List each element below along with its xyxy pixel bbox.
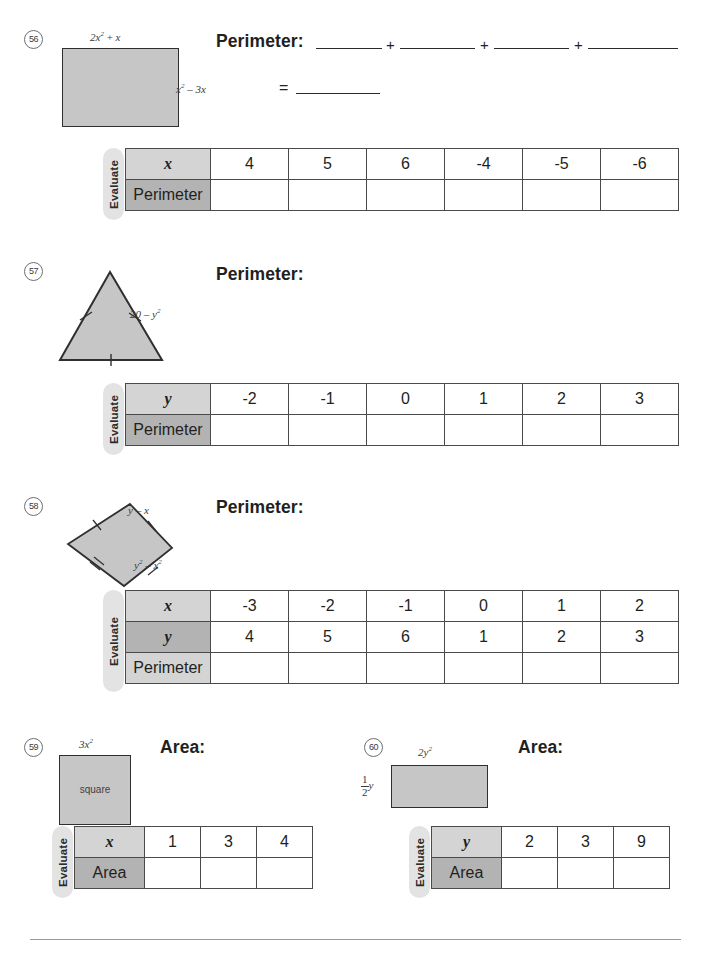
plus-sign-56-2: +: [480, 37, 489, 52]
cell-58-1-4[interactable]: 2: [523, 622, 601, 653]
table-59: x 1 3 4 Area: [74, 826, 313, 889]
answer-blank-56-3[interactable]: [494, 48, 569, 49]
cell-58-1-3[interactable]: 1: [445, 622, 523, 653]
evaluate-pill-56: Evaluate: [103, 148, 124, 220]
figure-rectangle-60: [391, 765, 488, 808]
cell-59-0-1[interactable]: 3: [201, 827, 257, 858]
cell-60-1-1[interactable]: [558, 858, 614, 889]
plus-sign-56-3: +: [574, 37, 583, 52]
cell-60-1-0[interactable]: [502, 858, 558, 889]
problem-number-59: 59: [24, 738, 43, 757]
cell-57-0-5[interactable]: 3: [601, 384, 679, 415]
cell-57-0-3[interactable]: 1: [445, 384, 523, 415]
cell-58-0-1[interactable]: -2: [289, 591, 367, 622]
cell-58-2-4[interactable]: [523, 653, 601, 684]
cell-56-1-1[interactable]: [289, 180, 367, 211]
cell-58-0-5[interactable]: 2: [601, 591, 679, 622]
cell-57-0-4[interactable]: 2: [523, 384, 601, 415]
table-row: y -2 -1 0 1 2 3: [126, 384, 679, 415]
cell-58-2-2[interactable]: [367, 653, 445, 684]
answer-blank-56-4[interactable]: [588, 48, 678, 49]
fraction-denominator: 2: [361, 787, 369, 799]
table-row: Perimeter: [126, 415, 679, 446]
cell-56-1-3[interactable]: [445, 180, 523, 211]
cell-58-0-2[interactable]: -1: [367, 591, 445, 622]
answer-blank-56-1[interactable]: [316, 48, 382, 49]
cell-58-2-1[interactable]: [289, 653, 367, 684]
cell-57-1-0[interactable]: [211, 415, 289, 446]
cell-58-2-3[interactable]: [445, 653, 523, 684]
cell-56-0-4[interactable]: -5: [523, 149, 601, 180]
cell-56-0-2[interactable]: 6: [367, 149, 445, 180]
table-60: y 2 3 9 Area: [431, 826, 670, 889]
table-58: x -3 -2 -1 0 1 2 y 4 5 6 1 2 3 Perimeter: [125, 590, 679, 684]
cell-56-0-0[interactable]: 4: [211, 149, 289, 180]
cell-59-0-2[interactable]: 4: [257, 827, 313, 858]
row-label-y-58: y: [126, 622, 211, 653]
table-row: Area: [75, 858, 313, 889]
row-label-x-59: x: [75, 827, 145, 858]
cell-58-0-0[interactable]: -3: [211, 591, 289, 622]
cell-57-0-2[interactable]: 0: [367, 384, 445, 415]
problem-number-58: 58: [24, 497, 43, 516]
cell-56-0-5[interactable]: -6: [601, 149, 679, 180]
cell-58-0-4[interactable]: 1: [523, 591, 601, 622]
evaluate-pill-58: Evaluate: [103, 590, 124, 692]
cell-57-0-0[interactable]: -2: [211, 384, 289, 415]
table-row: Perimeter: [126, 180, 679, 211]
table-row: y 2 3 9: [432, 827, 670, 858]
evaluate-pill-57: Evaluate: [103, 383, 124, 455]
cell-58-1-0[interactable]: 4: [211, 622, 289, 653]
problem-number-60: 60: [364, 738, 383, 757]
cell-60-0-2[interactable]: 9: [614, 827, 670, 858]
answer-blank-56-2[interactable]: [400, 48, 475, 49]
cell-57-1-2[interactable]: [367, 415, 445, 446]
cell-57-1-5[interactable]: [601, 415, 679, 446]
label-60-top: 2y2: [418, 745, 432, 758]
label-58-upper: y – x: [128, 504, 149, 516]
footer-divider: [30, 939, 681, 940]
cell-58-1-2[interactable]: 6: [367, 622, 445, 653]
problem-number-57: 57: [24, 262, 43, 281]
evaluate-label-59: Evaluate: [57, 838, 69, 887]
cell-56-1-0[interactable]: [211, 180, 289, 211]
cell-56-0-1[interactable]: 5: [289, 149, 367, 180]
table-row: x 4 5 6 -4 -5 -6: [126, 149, 679, 180]
cell-58-0-3[interactable]: 0: [445, 591, 523, 622]
cell-58-1-1[interactable]: 5: [289, 622, 367, 653]
plus-sign-56-1: +: [386, 37, 395, 52]
cell-60-0-0[interactable]: 2: [502, 827, 558, 858]
cell-56-1-2[interactable]: [367, 180, 445, 211]
cell-58-2-0[interactable]: [211, 653, 289, 684]
cell-59-1-1[interactable]: [201, 858, 257, 889]
label-56-top: 2x2 + x: [90, 30, 121, 43]
table-row: y 4 5 6 1 2 3: [126, 622, 679, 653]
fraction-numerator: 1: [361, 774, 369, 787]
cell-56-1-4[interactable]: [523, 180, 601, 211]
cell-57-1-1[interactable]: [289, 415, 367, 446]
label-59-inside: square: [59, 784, 131, 795]
cell-57-0-1[interactable]: -1: [289, 384, 367, 415]
evaluate-label-60: Evaluate: [414, 838, 426, 887]
prompt-58: Perimeter:: [216, 497, 304, 518]
cell-58-1-5[interactable]: 3: [601, 622, 679, 653]
cell-57-1-4[interactable]: [523, 415, 601, 446]
cell-60-1-2[interactable]: [614, 858, 670, 889]
answer-blank-56-total[interactable]: [296, 93, 380, 94]
fraction-stack: 1 2: [361, 774, 369, 798]
table-row: x 1 3 4: [75, 827, 313, 858]
row-label-perimeter-57: Perimeter: [126, 415, 211, 446]
cell-56-0-3[interactable]: -4: [445, 149, 523, 180]
cell-59-1-0[interactable]: [145, 858, 201, 889]
cell-59-1-2[interactable]: [257, 858, 313, 889]
table-row: x -3 -2 -1 0 1 2: [126, 591, 679, 622]
label-59-top: 3x2: [79, 737, 93, 750]
cell-58-2-5[interactable]: [601, 653, 679, 684]
cell-60-0-1[interactable]: 3: [558, 827, 614, 858]
evaluate-pill-60: Evaluate: [409, 826, 430, 898]
cell-56-1-5[interactable]: [601, 180, 679, 211]
cell-57-1-3[interactable]: [445, 415, 523, 446]
row-label-area-59: Area: [75, 858, 145, 889]
evaluate-label-58: Evaluate: [108, 617, 120, 666]
cell-59-0-0[interactable]: 1: [145, 827, 201, 858]
